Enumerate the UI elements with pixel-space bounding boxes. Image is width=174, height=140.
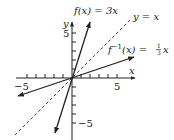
f-label: f(x) = 3x bbox=[73, 5, 118, 16]
f-inverse-label-x: x bbox=[163, 44, 169, 55]
y-tick-label-pos5: 5 bbox=[63, 28, 69, 39]
function-inverse-graph: x −5 5 y 5 −5 f(x) = 3x y = x f−1(x) = bbox=[0, 0, 174, 140]
x-tick-label-neg5: −5 bbox=[14, 81, 29, 92]
identity-label: y = x bbox=[132, 11, 159, 22]
svg-text:f−1(x) =: f−1(x) = bbox=[107, 43, 147, 55]
f-inverse-label: f−1(x) = 1 3 x bbox=[107, 42, 169, 56]
f-inverse-label-sup: −1 bbox=[112, 43, 122, 51]
x-axis-label: x bbox=[129, 65, 135, 76]
y-tick-label-neg5: −5 bbox=[78, 118, 93, 129]
x-tick-label-pos5: 5 bbox=[114, 81, 120, 92]
f-inverse-label-num: 1 bbox=[157, 42, 161, 49]
f-inverse-label-rest: (x) = bbox=[122, 44, 147, 55]
f-inverse-label-den: 3 bbox=[157, 49, 161, 56]
